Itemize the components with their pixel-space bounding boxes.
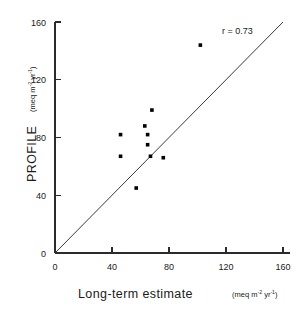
x-tick-label: 80 [164, 262, 174, 272]
plot-canvas: 04080120160 04080120160 r = 0.73 Long-te… [0, 0, 302, 310]
y-units-base: (meq m [28, 87, 37, 112]
x-tick-marks [55, 247, 283, 253]
scatter-plot-figure: 04080120160 04080120160 r = 0.73 Long-te… [0, 0, 302, 310]
x-axis-units: (meq m-2 yr-1) [232, 289, 278, 299]
data-point [119, 154, 123, 158]
correlation-annotation: r = 0.73 [222, 26, 253, 36]
y-units-close: ) [28, 66, 37, 69]
x-tick-labels: 04080120160 [52, 262, 290, 272]
x-units-close: ) [275, 290, 278, 299]
data-point [146, 133, 150, 137]
y-axis-title: PROFILE [25, 126, 39, 182]
x-tick-label: 120 [218, 262, 233, 272]
x-axis-title-group: Long-term estimate (meq m-2 yr-1) [78, 287, 278, 301]
x-tick-label: 0 [52, 262, 57, 272]
x-axis-title: Long-term estimate [78, 287, 193, 301]
y-tick-label: 40 [36, 191, 46, 201]
x-tick-label: 40 [107, 262, 117, 272]
y-tick-marks [55, 22, 61, 253]
y-axis-units: (meq m-2 yr-1) [27, 66, 37, 112]
reference-line-group [55, 22, 283, 253]
data-point [199, 43, 203, 47]
data-point [119, 133, 123, 137]
data-point [150, 108, 154, 112]
y-tick-label: 160 [31, 18, 46, 28]
y-tick-label: 0 [41, 249, 46, 259]
x-tick-label: 160 [275, 262, 290, 272]
axes-group [55, 22, 290, 253]
data-point [149, 154, 153, 158]
x-units-base: (meq m [232, 290, 257, 299]
data-point [143, 124, 147, 128]
data-point [146, 143, 150, 147]
one-to-one-reference-line [55, 22, 283, 253]
data-point [162, 156, 166, 160]
data-point [134, 186, 138, 190]
